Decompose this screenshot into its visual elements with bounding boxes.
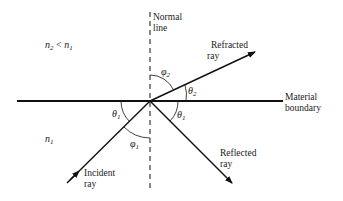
- phi1-arc: [124, 127, 150, 138]
- incident-ray-label-1: Incident: [84, 168, 115, 178]
- n-subscript: 1: [69, 44, 73, 52]
- normal-line-label-2: line: [153, 23, 167, 33]
- angle-subscript: 2: [193, 90, 197, 98]
- material-boundary-label-1: Material: [285, 92, 317, 102]
- reflected-ray-label-1: Reflected: [220, 148, 256, 158]
- n-subscript: 1: [50, 138, 54, 146]
- phi1-label: φ1: [130, 139, 139, 152]
- theta1-right-label: θ1: [177, 110, 185, 123]
- theta1-left-arc: [121, 101, 130, 122]
- refracted-ray-label-2: ray: [207, 51, 219, 61]
- incident-ray-label-2: ray: [84, 179, 96, 189]
- angle-subscript: 2: [167, 71, 171, 79]
- lower-medium-index: n1: [45, 134, 54, 147]
- phi2-label: φ2: [161, 67, 170, 80]
- angle-subscript: 1: [117, 113, 121, 121]
- refracted-ray-label-1: Refracted: [211, 40, 248, 50]
- material-boundary-label-2: boundary: [285, 103, 321, 113]
- reflected-ray: [150, 101, 232, 183]
- refraction-diagram: Normal line Refracted ray Material bound…: [0, 0, 343, 201]
- angle-subscript: 1: [182, 114, 186, 122]
- theta2-arc: [185, 85, 186, 101]
- normal-line-label-1: Normal: [153, 12, 182, 22]
- upper-medium-index-relation: n2 < n1: [45, 40, 73, 53]
- reflected-ray-label-2: ray: [220, 159, 232, 169]
- angle-subscript: 1: [136, 143, 140, 151]
- less-than-symbol: <: [54, 39, 65, 50]
- theta2-label: θ2: [188, 86, 196, 99]
- theta1-left-label: θ1: [112, 109, 120, 122]
- incident-ray-arrow: [70, 173, 77, 180]
